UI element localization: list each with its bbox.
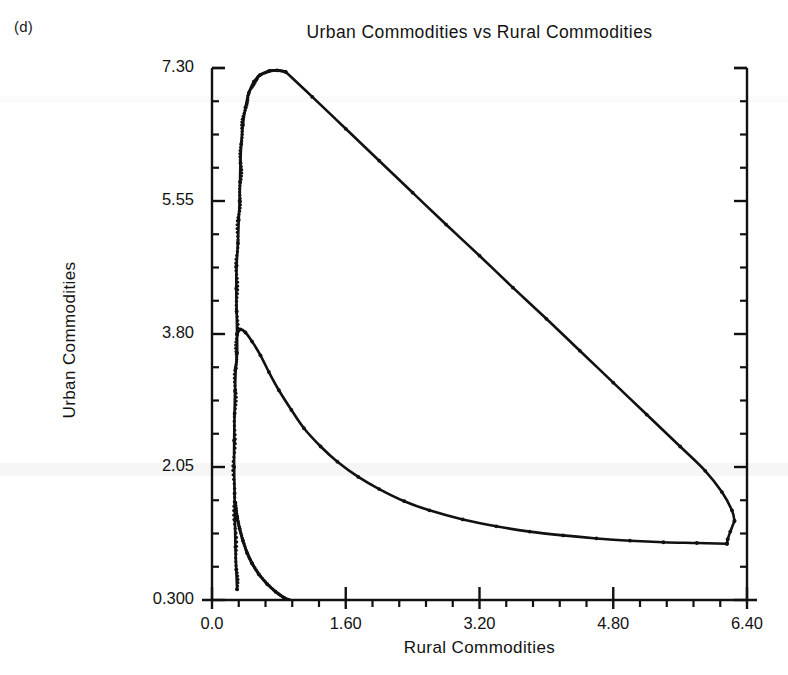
data-point-marker bbox=[238, 155, 241, 158]
data-point-marker bbox=[239, 206, 242, 209]
data-point-marker bbox=[240, 174, 243, 177]
data-point-marker bbox=[561, 534, 565, 538]
data-point-marker bbox=[236, 242, 239, 245]
data-point-marker bbox=[236, 250, 239, 253]
data-point-marker bbox=[236, 330, 239, 333]
series-trajectory-descending-line bbox=[284, 70, 737, 523]
y-tick-label: 0.300 bbox=[153, 589, 194, 608]
data-point-marker bbox=[240, 130, 243, 133]
data-point-marker bbox=[236, 223, 239, 226]
data-point-marker bbox=[703, 469, 707, 473]
data-point-marker bbox=[444, 223, 448, 227]
data-point-marker bbox=[277, 388, 281, 392]
data-point-marker bbox=[242, 115, 245, 118]
data-point-marker bbox=[233, 446, 236, 449]
series-trajectory-right-drop bbox=[725, 519, 736, 546]
data-point-marker bbox=[578, 349, 582, 353]
data-point-marker bbox=[239, 203, 242, 206]
data-point-marker bbox=[236, 584, 239, 587]
data-point-marker bbox=[236, 319, 239, 322]
data-point-marker bbox=[233, 369, 236, 372]
data-point-marker bbox=[233, 376, 236, 379]
data-point-marker bbox=[236, 574, 239, 577]
data-point-marker bbox=[236, 277, 239, 280]
data-point-marker bbox=[335, 460, 339, 464]
data-point-marker bbox=[234, 407, 237, 410]
data-point-marker bbox=[239, 200, 242, 203]
data-point-marker bbox=[236, 315, 239, 318]
data-point-marker bbox=[233, 429, 236, 432]
data-point-marker bbox=[238, 190, 241, 193]
data-point-marker bbox=[235, 304, 238, 307]
data-point-marker bbox=[239, 159, 242, 162]
figure-container: (d) Urban Commodities vs Rural Commoditi… bbox=[0, 0, 788, 675]
data-point-marker bbox=[236, 581, 239, 584]
data-point-marker bbox=[628, 539, 632, 543]
data-point-marker bbox=[238, 187, 241, 190]
data-point-marker bbox=[494, 524, 498, 528]
data-point-marker bbox=[241, 133, 244, 136]
data-point-marker bbox=[239, 197, 242, 200]
data-point-marker bbox=[234, 340, 237, 343]
data-point-marker bbox=[511, 286, 515, 290]
data-point-marker bbox=[302, 426, 306, 430]
data-point-marker bbox=[234, 403, 237, 406]
data-point-marker bbox=[239, 181, 242, 184]
data-point-marker bbox=[236, 231, 239, 234]
series-trajectory-lower-exit bbox=[234, 501, 291, 602]
data-point-marker bbox=[232, 518, 235, 521]
data-point-marker bbox=[241, 118, 244, 121]
data-point-marker bbox=[236, 292, 239, 295]
data-point-marker bbox=[236, 216, 239, 219]
data-point-marker bbox=[240, 165, 243, 168]
data-point-marker bbox=[238, 184, 241, 187]
data-point-marker bbox=[234, 269, 237, 272]
data-point-marker bbox=[234, 527, 237, 530]
data-point-marker bbox=[611, 381, 615, 385]
data-point-marker bbox=[411, 191, 415, 195]
data-point-marker bbox=[720, 490, 724, 494]
data-point-marker bbox=[233, 420, 236, 423]
x-tick-label: 6.40 bbox=[702, 614, 788, 633]
data-point-marker bbox=[678, 445, 682, 449]
data-point-marker bbox=[234, 560, 237, 563]
data-point-marker bbox=[233, 380, 236, 383]
data-point-marker bbox=[377, 159, 381, 163]
data-point-marker bbox=[231, 464, 234, 467]
data-point-marker bbox=[233, 415, 236, 418]
data-point-marker bbox=[233, 411, 236, 414]
data-point-marker bbox=[232, 478, 235, 481]
data-point-marker bbox=[238, 194, 241, 197]
data-point-marker bbox=[377, 487, 381, 491]
axes-group bbox=[202, 68, 757, 609]
data-point-marker bbox=[427, 508, 431, 512]
data-point-marker bbox=[234, 392, 237, 395]
data-point-marker bbox=[241, 136, 244, 139]
data-point-marker bbox=[267, 370, 271, 374]
data-point-marker bbox=[238, 152, 241, 155]
data-point-marker bbox=[233, 433, 236, 436]
data-point-marker bbox=[725, 542, 729, 546]
data-point-marker bbox=[595, 537, 599, 541]
data-point-marker bbox=[236, 571, 239, 574]
data-point-marker bbox=[235, 311, 238, 314]
data-point-marker bbox=[259, 353, 263, 357]
dense-sample-cluster-lower bbox=[234, 501, 291, 602]
data-point-marker bbox=[232, 455, 235, 458]
data-point-marker bbox=[233, 491, 236, 494]
data-point-marker bbox=[240, 171, 243, 174]
data-point-marker bbox=[235, 307, 238, 310]
series-group bbox=[231, 68, 736, 602]
data-point-marker bbox=[233, 487, 236, 490]
data-point-marker bbox=[236, 246, 239, 249]
data-point-marker bbox=[235, 536, 238, 539]
data-point-marker bbox=[662, 540, 666, 544]
data-point-marker bbox=[645, 413, 649, 417]
data-point-marker bbox=[236, 238, 239, 241]
data-point-marker bbox=[235, 588, 238, 591]
data-point-marker bbox=[234, 261, 237, 264]
data-point-marker bbox=[235, 540, 238, 543]
data-point-marker bbox=[236, 288, 239, 291]
data-point-marker bbox=[233, 451, 236, 454]
data-point-marker bbox=[728, 530, 732, 534]
